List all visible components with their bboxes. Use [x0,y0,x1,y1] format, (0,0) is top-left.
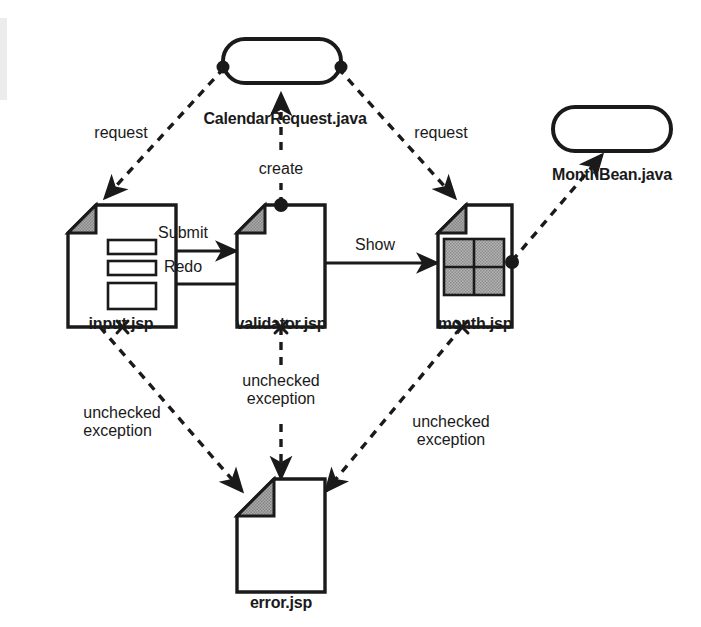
month-jsp-fold-corner-icon [438,205,466,233]
error-jsp-page-shape [237,479,325,592]
node-month-jsp[interactable] [438,205,519,333]
label-edge-submit: Submit [158,224,208,242]
month-jsp-bean-port [505,255,519,269]
validator-jsp-fold-corner-icon [237,205,265,233]
month-jsp-calendar-grid-icon [444,239,504,295]
label-calendarrequest-java: CalendarRequest.java [203,110,366,128]
label-input-jsp: input.jsp [89,315,154,333]
input-jsp-fold-corner-icon [68,205,96,233]
label-monthbean-java: MonthBean.java [552,166,672,184]
label-edge-create: create [259,160,303,178]
node-error-jsp[interactable] [237,479,325,592]
input-jsp-field-2 [108,261,156,275]
diagram-graphics [0,0,701,627]
label-edge-exception-right-line1: unchecked [412,413,489,430]
label-error-jsp: error.jsp [250,594,312,612]
diagram-canvas: CalendarRequest.java MonthBean.java inpu… [0,0,701,627]
validator-jsp-create-port [274,198,288,212]
label-edge-exception-left-line2: exception [83,422,152,439]
node-validator-jsp[interactable] [237,198,325,333]
label-edge-exception-middle-line2: exception [247,390,316,407]
label-edge-request-left: request [94,124,147,142]
label-edge-exception-left-line1: unchecked [83,404,160,421]
error-jsp-fold-corner-icon [237,479,274,516]
label-validator-jsp: validator.jsp [236,315,327,333]
label-edge-exception-right-line2: exception [417,431,486,448]
calendarrequest-shape [223,39,341,83]
label-month-jsp: month.jsp [438,315,513,333]
label-edge-show: Show [355,236,395,254]
monthbean-shape [553,107,671,151]
node-monthbean-java[interactable] [553,107,671,151]
input-jsp-field-1 [108,240,156,254]
node-calendarrequest-java[interactable] [217,39,348,83]
label-edge-request-right: request [414,124,467,142]
label-edge-redo: Redo [164,258,202,276]
edge-exception-month-to-error [326,327,462,491]
label-edge-exception-right: unchecked exception [412,413,489,449]
calendarrequest-port-right [335,61,348,74]
input-jsp-field-3 [108,283,156,309]
calendarrequest-port-left [217,61,230,74]
label-edge-exception-middle-line1: unchecked [242,372,319,389]
label-edge-exception-left: unchecked exception [83,404,160,440]
label-edge-exception-middle: unchecked exception [242,372,319,408]
